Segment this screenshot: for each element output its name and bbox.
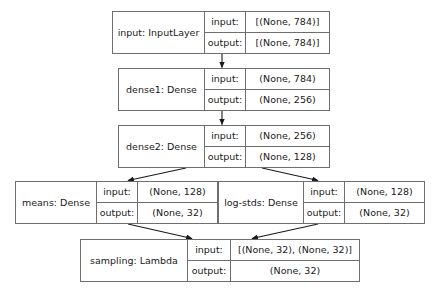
node-input-io: input: [(None, 784)] output: [(None, 784… xyxy=(204,12,329,53)
io-output-label: output: xyxy=(188,261,230,282)
node-means[interactable]: means: Dense input: (None, 128) output: … xyxy=(15,181,218,224)
io-input-label: input: xyxy=(205,69,245,89)
node-log-stds-output-row: output: (None, 32) xyxy=(304,203,424,224)
node-means-output-shape: (None, 32) xyxy=(137,203,217,224)
io-output-label: output: xyxy=(304,203,344,224)
node-dense2-output-row: output: (None, 128) xyxy=(205,147,329,168)
node-input-label: input: InputLayer xyxy=(113,12,204,53)
io-output-label: output: xyxy=(97,203,137,224)
node-means-input-shape: (None, 128) xyxy=(137,182,217,202)
node-dense1-label: dense1: Dense xyxy=(119,69,204,110)
node-dense1-input-row: input: (None, 784) xyxy=(205,69,329,90)
node-means-input-row: input: (None, 128) xyxy=(97,182,217,203)
node-dense1[interactable]: dense1: Dense input: (None, 784) output:… xyxy=(118,68,330,111)
node-log-stds-output-shape: (None, 32) xyxy=(344,203,424,224)
node-dense2-label: dense2: Dense xyxy=(119,126,204,167)
node-input-input-shape: [(None, 784)] xyxy=(245,12,329,32)
edge-log-stds-to-sampling xyxy=(252,224,318,239)
node-means-label: means: Dense xyxy=(16,182,96,223)
node-dense2-output-shape: (None, 128) xyxy=(245,147,329,168)
node-input-input-row: input: [(None, 784)] xyxy=(205,12,329,33)
io-input-label: input: xyxy=(188,240,230,260)
io-output-label: output: xyxy=(205,90,245,111)
node-input[interactable]: input: InputLayer input: [(None, 784)] o… xyxy=(112,11,330,54)
model-graph-diagram: input: InputLayer input: [(None, 784)] o… xyxy=(0,0,437,292)
io-input-label: input: xyxy=(205,126,245,146)
node-log-stds-label: log-stds: Dense xyxy=(219,182,303,223)
node-log-stds-input-shape: (None, 128) xyxy=(344,182,424,202)
node-sampling-input-row: input: [(None, 32), (None, 32)] xyxy=(188,240,359,261)
edge-dense2-to-means xyxy=(128,168,186,181)
node-dense1-output-shape: (None, 256) xyxy=(245,90,329,111)
node-means-output-row: output: (None, 32) xyxy=(97,203,217,224)
node-log-stds-input-row: input: (None, 128) xyxy=(304,182,424,203)
node-sampling-label: sampling: Lambda xyxy=(81,240,187,281)
node-log-stds-io: input: (None, 128) output: (None, 32) xyxy=(303,182,424,223)
node-sampling-input-shape: [(None, 32), (None, 32)] xyxy=(230,240,359,260)
io-output-label: output: xyxy=(205,147,245,168)
node-sampling[interactable]: sampling: Lambda input: [(None, 32), (No… xyxy=(80,239,360,282)
node-dense1-input-shape: (None, 784) xyxy=(245,69,329,89)
node-dense2[interactable]: dense2: Dense input: (None, 256) output:… xyxy=(118,125,330,168)
io-input-label: input: xyxy=(97,182,137,202)
node-sampling-output-row: output: (None, 32) xyxy=(188,261,359,282)
node-input-output-shape: [(None, 784)] xyxy=(245,33,329,54)
edge-means-to-sampling xyxy=(128,224,192,239)
node-means-io: input: (None, 128) output: (None, 32) xyxy=(96,182,217,223)
node-dense2-io: input: (None, 256) output: (None, 128) xyxy=(204,126,329,167)
node-sampling-io: input: [(None, 32), (None, 32)] output: … xyxy=(187,240,359,281)
edge-dense2-to-log-stds xyxy=(262,168,318,181)
node-sampling-output-shape: (None, 32) xyxy=(230,261,359,282)
io-input-label: input: xyxy=(304,182,344,202)
node-dense1-output-row: output: (None, 256) xyxy=(205,90,329,111)
io-input-label: input: xyxy=(205,12,245,32)
io-output-label: output: xyxy=(205,33,245,54)
node-dense2-input-row: input: (None, 256) xyxy=(205,126,329,147)
node-dense2-input-shape: (None, 256) xyxy=(245,126,329,146)
node-dense1-io: input: (None, 784) output: (None, 256) xyxy=(204,69,329,110)
node-input-output-row: output: [(None, 784)] xyxy=(205,33,329,54)
node-log-stds[interactable]: log-stds: Dense input: (None, 128) outpu… xyxy=(218,181,425,224)
